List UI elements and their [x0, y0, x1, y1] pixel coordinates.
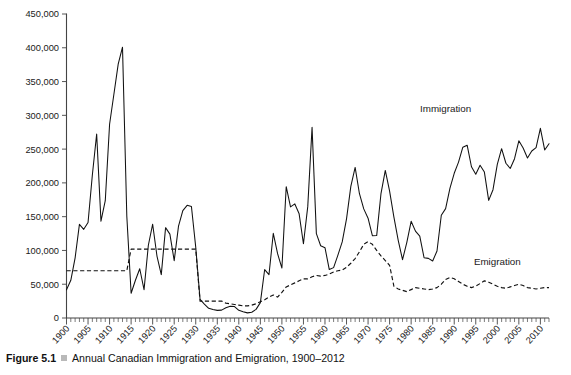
- x-tick-label: 1940: [222, 324, 243, 345]
- x-tick-label: 1965: [330, 324, 351, 345]
- x-tick-label: 1900: [50, 324, 71, 345]
- x-tick-label: 1970: [352, 324, 373, 345]
- x-tick-label: 2010: [524, 324, 545, 345]
- x-tick-label: 1985: [416, 324, 437, 345]
- y-tick-label: 100,000: [25, 246, 59, 256]
- figure-caption: Figure 5.1 Annual Canadian Immigration a…: [6, 352, 345, 364]
- y-tick-label: 150,000: [25, 212, 59, 222]
- y-tick-label: 350,000: [25, 77, 59, 87]
- immigration-emigration-line-chart: 050,000100,000150,000200,000250,000300,0…: [0, 0, 571, 345]
- x-tick-label: 1925: [158, 324, 179, 345]
- x-tick-label: 1955: [287, 324, 308, 345]
- y-tick-label: 450,000: [25, 9, 59, 19]
- y-tick-label: 50,000: [31, 280, 59, 290]
- x-tick-label: 2000: [481, 324, 502, 345]
- x-tick-label: 1915: [115, 324, 136, 345]
- y-tick-label: 250,000: [25, 145, 59, 155]
- figure-number: Figure 5.1: [6, 352, 56, 364]
- figure-container: 050,000100,000150,000200,000250,000300,0…: [0, 0, 571, 375]
- y-tick-label: 400,000: [25, 43, 59, 53]
- y-tick-label: 300,000: [25, 111, 59, 121]
- y-tick-label: 0: [54, 313, 59, 323]
- x-tick-label: 1905: [72, 324, 93, 345]
- x-tick-label: 1930: [179, 324, 200, 345]
- series-line-emigration: [67, 242, 550, 306]
- x-tick-label: 2005: [502, 324, 523, 345]
- x-tick-label: 1975: [373, 324, 394, 345]
- x-tick-label: 1960: [309, 324, 330, 345]
- x-tick-label: 1990: [438, 324, 459, 345]
- x-tick-label: 1935: [201, 324, 222, 345]
- x-tick-label: 1910: [93, 324, 114, 345]
- immigration-series-label: Immigration: [420, 103, 471, 114]
- y-tick-label: 200,000: [25, 178, 59, 188]
- emigration-series-label: Emigration: [474, 256, 521, 267]
- figure-caption-text: Annual Canadian Immigration and Emigrati…: [72, 352, 345, 364]
- x-tick-label: 1945: [244, 324, 265, 345]
- x-tick-label: 1980: [395, 324, 416, 345]
- x-tick-label: 1950: [265, 324, 286, 345]
- square-bullet-icon: [61, 355, 67, 361]
- series-line-immigration: [67, 47, 550, 313]
- x-tick-label: 1920: [136, 324, 157, 345]
- x-tick-label: 1995: [459, 324, 480, 345]
